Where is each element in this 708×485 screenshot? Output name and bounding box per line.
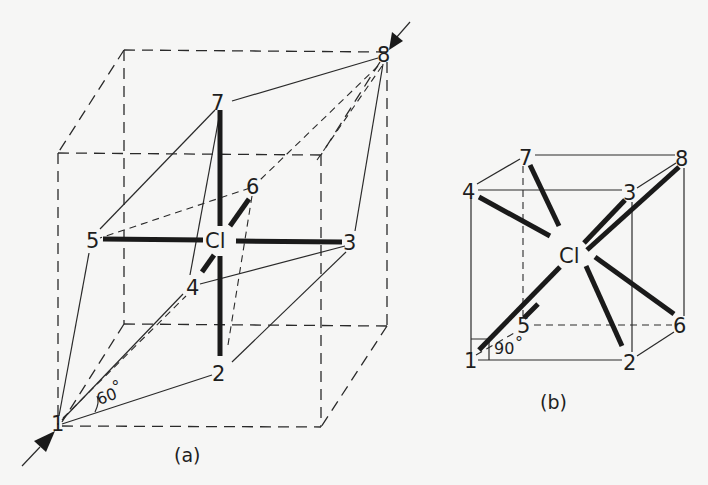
svg-text:°: ° bbox=[515, 333, 523, 352]
arrow-bottom-line bbox=[22, 447, 40, 466]
vertex-label-1: 1 bbox=[51, 412, 64, 436]
caption-b: (b) bbox=[540, 391, 567, 413]
arrow-top-line bbox=[396, 22, 410, 38]
svg-text:90: 90 bbox=[494, 339, 514, 358]
vertex-label-4: 4 bbox=[186, 276, 199, 300]
center-atom-label: Cl bbox=[205, 229, 226, 253]
arrow-head-icon bbox=[389, 32, 403, 50]
vertex-label-7: 7 bbox=[211, 91, 224, 115]
vertex-label-8: 8 bbox=[675, 147, 688, 171]
vertex-label-5: 5 bbox=[86, 229, 99, 253]
angle-label-60: 60 ° bbox=[92, 376, 126, 409]
crystal-coordination-figure: 8 7 6 5 Cl 3 4 2 1 60 ° (a) bbox=[0, 0, 708, 485]
vertex-label-6: 6 bbox=[246, 175, 259, 199]
vertex-label-8: 8 bbox=[377, 43, 390, 67]
vertex-label-6: 6 bbox=[673, 314, 686, 338]
vertex-label-2: 2 bbox=[623, 351, 636, 375]
center-atom-label: Cl bbox=[559, 244, 580, 268]
vertex-label-3: 3 bbox=[623, 181, 636, 205]
panel-b: 7 8 4 3 Cl 5 6 1 2 90 ° (b) bbox=[462, 146, 688, 413]
vertex-label-2: 2 bbox=[212, 362, 225, 386]
caption-a: (a) bbox=[174, 444, 200, 466]
vertex-label-3: 3 bbox=[343, 231, 356, 255]
vertex-label-4: 4 bbox=[462, 180, 475, 204]
panel-a: 8 7 6 5 Cl 3 4 2 1 60 ° (a) bbox=[22, 22, 410, 466]
vertex-label-1: 1 bbox=[464, 349, 477, 373]
vertex-label-7: 7 bbox=[519, 146, 532, 170]
